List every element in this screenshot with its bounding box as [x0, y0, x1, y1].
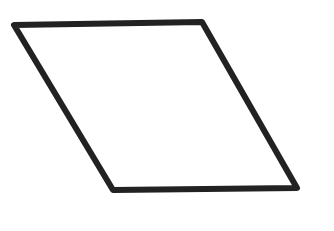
- parallelogram-shape: [14, 22, 297, 190]
- diagram-canvas: [0, 0, 334, 231]
- parallelogram-figure: [0, 0, 334, 231]
